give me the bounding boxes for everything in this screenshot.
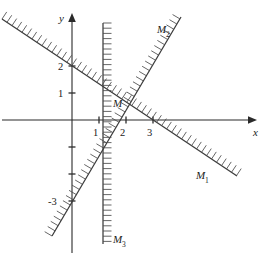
hatching-m1 xyxy=(2,12,241,176)
feasible-region-label: M xyxy=(112,97,123,109)
x-axis-label: x xyxy=(252,126,258,138)
line-label-m1-subscript: 1 xyxy=(205,176,209,185)
y-tick-label-minus-3: -3 xyxy=(48,196,57,207)
figure-canvas: x y 1 2 3 2 1 -3 M M 1 M 2 M 3 xyxy=(0,0,274,263)
line-label-m3-subscript: 3 xyxy=(122,240,126,249)
axis-group xyxy=(2,13,257,253)
x-tick-label-2: 2 xyxy=(120,127,125,138)
x-tick-label-3: 3 xyxy=(147,127,152,138)
coordinate-plot-svg: x y 1 2 3 2 1 -3 M M 1 M 2 M 3 xyxy=(0,0,274,263)
line-label-m2-subscript: 2 xyxy=(166,30,170,39)
y-tick-label-1: 1 xyxy=(58,88,63,99)
hatching-m2 xyxy=(45,15,180,236)
x-axis-arrowhead xyxy=(248,116,257,124)
y-axis-arrowhead xyxy=(68,13,76,22)
x-tick-label-1: 1 xyxy=(93,127,98,138)
hatching-m3 xyxy=(103,23,112,241)
y-tick-label-2: 2 xyxy=(58,61,63,72)
text-label-group: x y 1 2 3 2 1 -3 M M 1 M 2 M 3 xyxy=(48,12,258,249)
y-axis-label: y xyxy=(58,12,64,24)
